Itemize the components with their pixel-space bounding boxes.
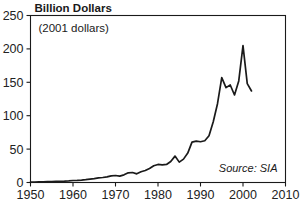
x-tick-label: 1960 [59,188,87,202]
y-tick-label: 250 [3,9,24,23]
x-axis-tick-marks [31,183,286,187]
x-tick-label: 1970 [102,188,130,202]
x-tick-label: 1990 [187,188,215,202]
y-tick-label: 200 [3,42,24,56]
chart-title: Billion Dollars [35,2,112,14]
source-annotation: Source: SIA [219,162,278,174]
y-tick-label: 150 [3,76,24,90]
x-tick-label: 2010 [272,188,300,202]
x-tick-label: 2000 [229,188,257,202]
y-tick-label: 100 [3,109,24,123]
x-tick-label: 1950 [17,188,45,202]
chart-container: 050100150200250 195019601970198019902000… [0,0,301,205]
line-chart: 050100150200250 195019601970198019902000… [0,0,301,205]
x-axis-tick-labels: 1950196019701980199020002010 [17,188,300,202]
plot-frame [31,16,286,183]
y-axis-tick-marks [27,16,31,183]
y-axis-tick-labels: 050100150200250 [3,9,24,190]
y-tick-label: 50 [10,143,24,157]
chart-subtitle: (2001 dollars) [39,22,109,34]
x-tick-label: 1980 [144,188,172,202]
